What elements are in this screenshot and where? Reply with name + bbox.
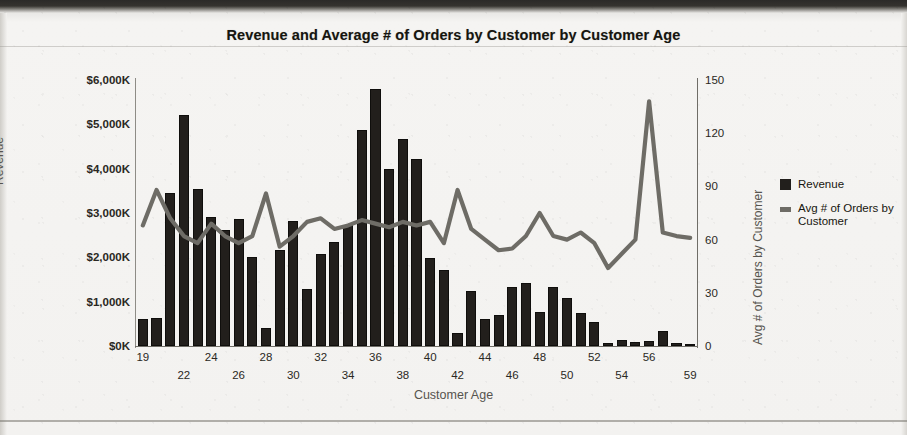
x-tick-54: 54 [615,369,628,381]
x-tick-56: 56 [643,351,656,363]
x-tick-59: 59 [684,369,697,381]
line-series-avg-orders [136,80,697,346]
y-tick-left-5000: $5,000K [87,118,130,130]
x-tick-19: 19 [136,351,149,363]
y-tick-left-2000: $2,000K [87,251,130,263]
x-tick-38: 38 [396,369,409,381]
legend-bar-swatch-icon [780,179,791,190]
x-tick-40: 40 [424,351,437,363]
y-tick-right-60: 60 [705,234,718,246]
y-tick-right-120: 120 [705,127,724,139]
chart-title: Revenue and Average # of Orders by Custo… [0,27,907,43]
x-tick-22: 22 [177,369,190,381]
y-axis-right-ticks: 1501209060300 [697,80,757,346]
x-axis-ticks: 1922242628303234363840424446485052545659 [136,349,697,389]
legend-label-revenue: Revenue [798,178,844,191]
y-tick-left-3000: $3,000K [87,207,130,219]
chart-page: Revenue and Average # of Orders by Custo… [0,0,907,435]
axis-line-right [697,78,698,348]
y-tick-left-6000: $6,000K [87,74,130,86]
x-tick-26: 26 [232,369,245,381]
y-tick-left-1000: $1,000K [87,296,130,308]
footer-divider [0,420,907,422]
x-tick-36: 36 [369,351,382,363]
chart-legend: Revenue Avg # of Orders by Customer [780,178,900,239]
page-right-edge [901,13,907,435]
axis-line-bottom [135,346,698,347]
x-tick-42: 42 [451,369,464,381]
y-tick-right-90: 90 [705,180,718,192]
x-tick-48: 48 [533,351,546,363]
x-tick-24: 24 [205,351,218,363]
y-tick-right-150: 150 [705,74,724,86]
header-divider [0,46,907,47]
y-tick-left-4000: $4,000K [87,163,130,175]
x-tick-52: 52 [588,351,601,363]
legend-item-avg-orders[interactable]: Avg # of Orders by Customer [780,202,900,228]
x-tick-30: 30 [287,369,300,381]
x-tick-44: 44 [479,351,492,363]
x-tick-50: 50 [561,369,574,381]
y-axis-left-ticks: $6,000K$5,000K$4,000K$3,000K$2,000K$1,00… [50,80,136,346]
page-left-edge [0,13,7,435]
x-tick-28: 28 [260,351,273,363]
legend-label-avg-orders: Avg # of Orders by Customer [798,202,900,228]
y-tick-right-0: 0 [705,340,711,352]
x-tick-32: 32 [314,351,327,363]
legend-item-revenue[interactable]: Revenue [780,178,900,191]
legend-line-swatch-icon [780,207,791,212]
x-axis-title: Customer Age [0,388,907,402]
y-axis-left-title: Revenue [0,137,6,185]
x-tick-46: 46 [506,369,519,381]
avg-orders-polyline [143,101,690,268]
x-tick-34: 34 [342,369,355,381]
plot-area [136,80,697,346]
y-tick-right-30: 30 [705,287,718,299]
y-tick-left-0: $0K [109,340,130,352]
